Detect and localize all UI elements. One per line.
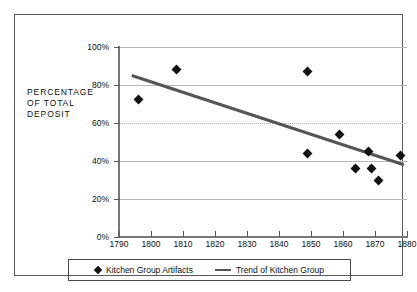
diamond-marker-icon (94, 266, 102, 274)
y-tick-label-80: 80% (71, 80, 109, 90)
x-tick-label-1830: 1830 (230, 239, 264, 249)
x-tick-1880 (407, 231, 408, 237)
x-tick-label-1800: 1800 (134, 239, 168, 249)
x-tick-label-1820: 1820 (198, 239, 232, 249)
y-tick-label-60: 60% (71, 118, 109, 128)
x-tick-label-1880: 1880 (390, 239, 417, 249)
x-tick-label-1850: 1850 (294, 239, 328, 249)
x-tick-label-1860: 1860 (326, 239, 360, 249)
y-tick-0 (114, 237, 120, 238)
legend-label-artifacts: Kitchen Group Artifacts (106, 265, 193, 275)
trend-line-series (119, 47, 407, 237)
x-tick-label-1870: 1870 (358, 239, 392, 249)
chart-legend: Kitchen Group Artifacts Trend of Kitchen… (68, 259, 351, 281)
x-tick-label-1790: 1790 (102, 239, 136, 249)
legend-label-trend: Trend of Kitchen Group (236, 265, 324, 275)
y-tick-label-40: 40% (71, 156, 109, 166)
line-marker-icon (215, 269, 231, 272)
legend-item-kitchen-group-artifacts: Kitchen Group Artifacts (95, 265, 193, 275)
x-tick-label-1810: 1810 (166, 239, 200, 249)
x-tick-label-1840: 1840 (262, 239, 296, 249)
legend-item-trend-of-kitchen-group: Trend of Kitchen Group (215, 265, 324, 275)
y-tick-label-100: 100% (71, 42, 109, 52)
y-axis-title-line-2: OF TOTAL (27, 98, 113, 109)
plot-area (119, 47, 407, 237)
y-axis-title: PERCENTAGE OF TOTAL DEPOSIT (27, 87, 113, 120)
chart-frame: PERCENTAGE OF TOTAL DEPOSIT 0%20%40%60%8… (14, 14, 403, 276)
y-tick-label-20: 20% (71, 194, 109, 204)
